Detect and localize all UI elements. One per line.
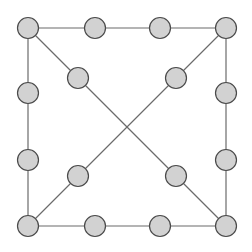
graph-node-right-edge-node-1 xyxy=(216,83,237,104)
graph-node-top-edge-node-1 xyxy=(85,18,106,39)
graph-canvas xyxy=(0,0,252,252)
graph-node-left-edge-node-2 xyxy=(18,150,39,171)
graph-diagram xyxy=(0,0,252,252)
graph-node-right-edge-node-2 xyxy=(216,150,237,171)
graph-node-bottom-edge-node-1 xyxy=(85,216,106,237)
edge-layer xyxy=(28,28,226,226)
graph-node-top-left-corner xyxy=(18,18,39,39)
graph-node-left-edge-node-1 xyxy=(18,83,39,104)
graph-node-inner-lower-right-node xyxy=(166,166,187,187)
graph-node-inner-upper-right-node xyxy=(166,68,187,89)
graph-node-top-right-corner xyxy=(216,18,237,39)
graph-node-bottom-edge-node-2 xyxy=(150,216,171,237)
graph-node-bottom-right-corner xyxy=(216,216,237,237)
graph-node-top-edge-node-2 xyxy=(150,18,171,39)
graph-node-inner-lower-left-node xyxy=(68,166,89,187)
graph-node-inner-upper-left-node xyxy=(68,68,89,89)
graph-node-bottom-left-corner xyxy=(18,216,39,237)
